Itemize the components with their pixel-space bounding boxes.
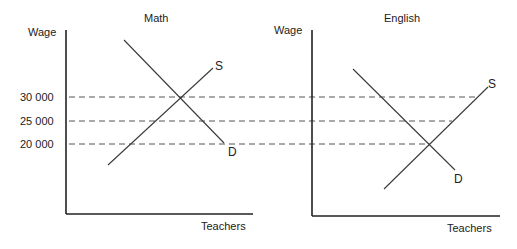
wage-label-20000: 20 000	[20, 138, 54, 150]
math-demand-curve	[124, 40, 224, 143]
english-demand-curve	[353, 69, 455, 170]
math-title: Math	[144, 12, 168, 24]
english-demand-label: D	[454, 172, 463, 186]
english-x-axis-label: Teachers	[447, 222, 492, 234]
math-demand-label: D	[228, 145, 237, 159]
math-x-axis-label: Teachers	[201, 220, 246, 232]
math-supply-label: S	[215, 59, 223, 73]
math-panel: Math Wage Teachers S D	[28, 12, 253, 232]
english-supply-curve	[384, 87, 488, 189]
math-y-axis-label: Wage	[28, 26, 56, 38]
english-title: English	[384, 12, 420, 24]
wage-diagram: Math Wage Teachers S D 30 000 25 000 20 …	[0, 0, 517, 249]
english-supply-label: S	[488, 77, 496, 91]
english-y-axis-label: Wage	[274, 24, 302, 36]
wage-label-30000: 30 000	[20, 91, 54, 103]
wage-label-25000: 25 000	[20, 115, 54, 127]
english-panel: English Wage Teachers S D	[274, 12, 500, 234]
math-supply-curve	[108, 68, 213, 165]
